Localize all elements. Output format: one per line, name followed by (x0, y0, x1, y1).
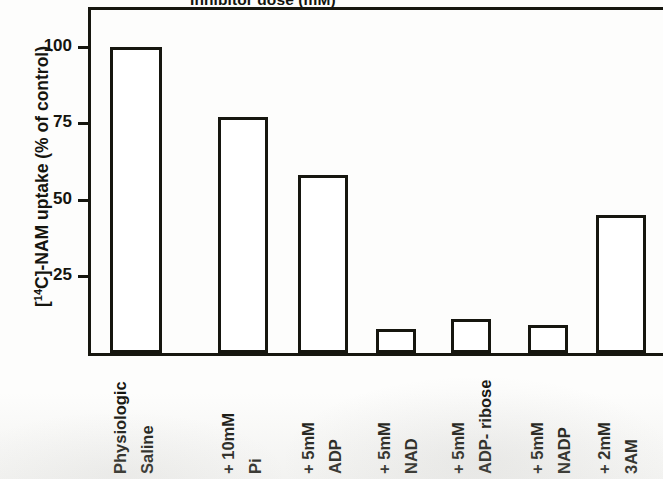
y-axis-tick-25 (78, 275, 89, 278)
bar (110, 47, 162, 353)
bar (451, 319, 491, 353)
x-axis-label-line: + 5mM (299, 422, 318, 474)
y-axis-title-text: C]-NAM uptake (% of control) (32, 46, 52, 289)
chart-top-rule (88, 7, 663, 10)
x-axis-label-group: PhysiologicSaline+ 10mMPi+ 5mMADP+ 5mMNA… (91, 356, 663, 479)
x-axis-label-line: ADP (326, 439, 345, 474)
bar (528, 325, 568, 353)
y-axis-tick-100 (78, 46, 89, 49)
x-axis-label-line: Saline (138, 425, 157, 474)
y-axis-tick-label-100: 100 (14, 36, 72, 56)
x-axis-label-line: + 2mM (595, 422, 614, 474)
x-axis-label-line: ADP- ribose (476, 380, 495, 474)
bar-chart-figure: Inhibitor dose (mM) [14C]-NAM uptake (% … (0, 0, 663, 479)
x-axis-label-line: + 10mM (219, 413, 238, 474)
x-axis-label-line: NADP (555, 427, 574, 474)
y-axis-line (88, 7, 91, 356)
y-axis-tick-label-75: 75 (14, 112, 72, 132)
bar (376, 329, 416, 354)
y-axis-tick-75 (78, 122, 89, 125)
y-axis-title-superscript: 14 (32, 289, 44, 301)
x-axis-label-line: NAD (402, 438, 421, 474)
x-axis-label-line: + 5mM (528, 422, 547, 474)
y-axis-tick-label-50: 50 (14, 189, 72, 209)
bar (596, 215, 646, 353)
y-axis-tick-50 (78, 199, 89, 202)
y-axis-title: [14C]-NAM uptake (% of control) (32, 7, 53, 347)
bar (218, 117, 268, 353)
x-axis-line (88, 353, 663, 356)
x-axis-label-line: + 5mM (375, 422, 394, 474)
bar (298, 175, 348, 353)
x-axis-label-line: Pi (246, 458, 265, 474)
y-axis-title-bracket: [ (32, 301, 52, 307)
x-axis-label-line: Physiologic (111, 381, 130, 474)
x-axis-label-line: 3AM (622, 439, 641, 474)
plot-area (91, 10, 663, 353)
y-axis-tick-label-25: 25 (14, 265, 72, 285)
x-axis-label-line: + 5mM (449, 422, 468, 474)
